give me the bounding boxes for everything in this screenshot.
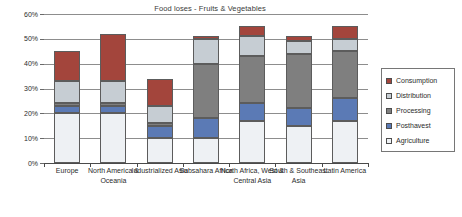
bar-segment[interactable] xyxy=(286,108,312,125)
bar-segment[interactable] xyxy=(193,138,219,163)
legend-item[interactable]: Posthavest xyxy=(386,118,451,133)
bar-segment[interactable] xyxy=(54,81,80,103)
bar-stack[interactable] xyxy=(332,14,358,163)
bar-segment[interactable] xyxy=(193,64,219,119)
bar-segment[interactable] xyxy=(286,41,312,53)
bar-segment[interactable] xyxy=(147,106,173,123)
bar-segment[interactable] xyxy=(239,36,265,56)
bar-segment[interactable] xyxy=(332,98,358,120)
legend-swatch-icon xyxy=(386,93,392,99)
bar-segment[interactable] xyxy=(100,113,126,163)
bar-stack[interactable] xyxy=(193,14,219,163)
chart-container: Food loses - Fruits & Vegetables 0%10%20… xyxy=(0,0,462,217)
bar-segment[interactable] xyxy=(100,81,126,103)
legend-item[interactable]: Consumption xyxy=(386,73,451,88)
bar-segment[interactable] xyxy=(286,36,312,41)
bar-segment[interactable] xyxy=(100,34,126,81)
legend-label: Distribution xyxy=(396,92,431,99)
legend-label: Consumption xyxy=(396,77,437,84)
bar-segment[interactable] xyxy=(100,103,126,105)
legend-label: Processing xyxy=(396,107,431,114)
y-axis-tick-label: 60% xyxy=(8,11,38,18)
bar-segment[interactable] xyxy=(193,36,219,38)
bar-segment[interactable] xyxy=(54,113,80,163)
bar-segment[interactable] xyxy=(332,26,358,38)
bar-segment[interactable] xyxy=(54,103,80,105)
bar-stack[interactable] xyxy=(239,14,265,163)
bar-segment[interactable] xyxy=(147,138,173,163)
bar-segment[interactable] xyxy=(147,126,173,138)
legend-item[interactable]: Processing xyxy=(386,103,451,118)
y-axis-tick-label: 40% xyxy=(8,60,38,67)
x-axis-category-label: Latin America xyxy=(312,166,378,176)
bar-segment[interactable] xyxy=(332,51,358,98)
bar-segment[interactable] xyxy=(332,39,358,51)
plot-area xyxy=(44,14,368,163)
legend-label: Agriculture xyxy=(396,137,429,144)
y-axis-tick-label: 30% xyxy=(8,85,38,92)
legend-item[interactable]: Distribution xyxy=(386,88,451,103)
bar-stack[interactable] xyxy=(100,14,126,163)
bar-segment[interactable] xyxy=(193,118,219,138)
bar-stack[interactable] xyxy=(286,14,312,163)
gridline xyxy=(44,163,368,164)
bar-segment[interactable] xyxy=(332,121,358,163)
legend-swatch-icon xyxy=(386,138,392,144)
bar-stack[interactable] xyxy=(54,14,80,163)
bar-segment[interactable] xyxy=(54,106,80,113)
bar-segment[interactable] xyxy=(286,126,312,163)
y-axis-tick-label: 10% xyxy=(8,135,38,142)
bar-segment[interactable] xyxy=(54,51,80,81)
bar-segment[interactable] xyxy=(239,26,265,36)
bar-segment[interactable] xyxy=(147,123,173,125)
legend-swatch-icon xyxy=(386,123,392,129)
bar-segment[interactable] xyxy=(147,79,173,106)
bar-segment[interactable] xyxy=(193,39,219,64)
bar-segment[interactable] xyxy=(286,54,312,109)
legend-swatch-icon xyxy=(386,108,392,114)
chart-legend: ConsumptionDistributionProcessingPosthav… xyxy=(381,68,455,152)
bar-segment[interactable] xyxy=(239,56,265,103)
bar-stack[interactable] xyxy=(147,14,173,163)
y-axis-tick-label: 20% xyxy=(8,110,38,117)
x-axis-tick-mark xyxy=(368,163,369,167)
bar-segment[interactable] xyxy=(100,106,126,113)
legend-label: Posthavest xyxy=(396,122,431,129)
legend-item[interactable]: Agriculture xyxy=(386,133,451,148)
legend-swatch-icon xyxy=(386,78,392,84)
bar-segment[interactable] xyxy=(239,103,265,120)
bar-segment[interactable] xyxy=(239,121,265,163)
y-axis-tick-label: 50% xyxy=(8,35,38,42)
